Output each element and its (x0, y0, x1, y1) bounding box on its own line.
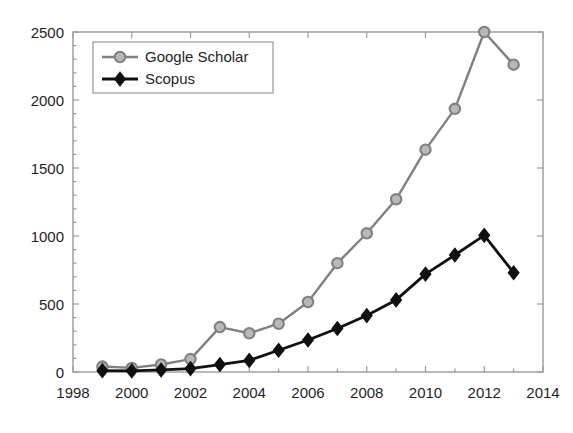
data-point-google-scholar-2012 (479, 27, 489, 37)
data-point-scopus-2004 (244, 354, 254, 366)
x-tick-label-2004: 2004 (233, 384, 266, 401)
y-tick-label-2000: 2000 (31, 92, 64, 109)
legend-label-1: Scopus (145, 70, 195, 87)
line-chart: 199820002002200420062008201020122014 050… (0, 0, 573, 433)
x-tick-label-2006: 2006 (291, 384, 324, 401)
data-point-google-scholar-2011 (450, 104, 460, 114)
legend-label-0: Google Scholar (145, 48, 248, 65)
x-axis-tick-labels: 199820002002200420062008201020122014 (56, 384, 559, 401)
data-point-google-scholar-2007 (332, 258, 342, 268)
y-axis-tick-labels: 05001000150020002500 (31, 24, 64, 381)
data-point-scopus-2005 (274, 344, 284, 356)
data-point-google-scholar-2010 (420, 144, 430, 154)
data-point-scopus-2006 (303, 334, 313, 346)
data-point-google-scholar-2004 (244, 328, 254, 338)
data-point-scopus-2008 (362, 309, 372, 321)
data-point-google-scholar-2006 (303, 297, 313, 307)
x-tick-label-2012: 2012 (468, 384, 501, 401)
plot-canvas: 199820002002200420062008201020122014 050… (0, 0, 573, 433)
x-tick-label-2014: 2014 (526, 384, 559, 401)
data-point-google-scholar-2013 (508, 59, 518, 69)
data-point-google-scholar-2005 (273, 319, 283, 329)
y-tick-label-1500: 1500 (31, 160, 64, 177)
data-point-scopus-2011 (450, 249, 460, 261)
x-tick-label-2008: 2008 (350, 384, 383, 401)
x-tick-label-2000: 2000 (115, 384, 148, 401)
y-tick-label-2500: 2500 (31, 24, 64, 41)
x-tick-label-1998: 1998 (56, 384, 89, 401)
chart-legend: Google ScholarScopus (93, 42, 273, 93)
x-tick-label-2002: 2002 (174, 384, 207, 401)
legend-marker-circle-icon (115, 52, 125, 62)
data-point-scopus-2003 (215, 358, 225, 370)
data-point-google-scholar-2003 (215, 322, 225, 332)
data-point-scopus-2007 (333, 322, 343, 334)
data-point-google-scholar-2009 (391, 194, 401, 204)
y-tick-label-1000: 1000 (31, 228, 64, 245)
x-tick-label-2010: 2010 (409, 384, 442, 401)
y-tick-label-500: 500 (39, 296, 64, 313)
data-point-google-scholar-2008 (362, 228, 372, 238)
y-tick-label-0: 0 (56, 364, 64, 381)
